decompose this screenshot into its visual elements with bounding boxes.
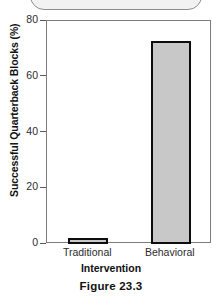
y-axis-tick: [40, 131, 46, 132]
y-axis-tick: [40, 20, 46, 21]
rounded-box-cutoff-icon: [30, 0, 202, 10]
bar-behavioral: [151, 41, 191, 244]
y-axis-tick: [40, 243, 46, 244]
x-axis-title: Intervention: [0, 262, 222, 274]
y-axis-title: Successful Quarterback Blocks (%): [8, 47, 20, 197]
y-axis-tick: [40, 187, 46, 188]
y-axis-tick-label-wrap: 0: [0, 237, 38, 247]
bar-traditional: [68, 238, 108, 244]
y-axis-tick: [40, 75, 46, 76]
plot-area: [46, 20, 211, 243]
figure-23-3: 020406080 Successful Quarterback Blocks …: [0, 0, 222, 297]
figure-caption: Figure 23.3: [0, 280, 222, 292]
y-axis-tick-label: 0: [4, 237, 38, 247]
x-axis-category-label: Traditional: [42, 246, 132, 258]
x-axis-category-label: Behavioral: [125, 246, 215, 258]
